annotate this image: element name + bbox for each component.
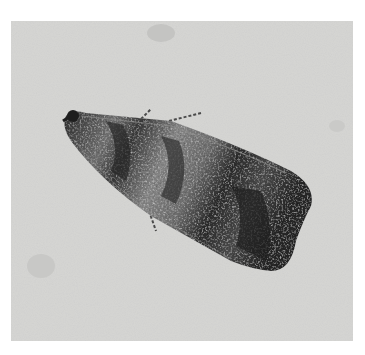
moth-illustration bbox=[11, 21, 353, 341]
moth-photo bbox=[11, 21, 353, 341]
